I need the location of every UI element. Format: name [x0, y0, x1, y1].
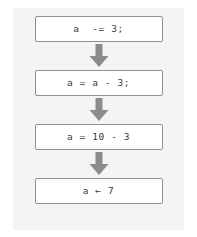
down-arrow-icon-3 — [86, 151, 112, 177]
down-arrow-icon-2 — [86, 97, 112, 123]
step-expanded-assignment-label: a = a - 3; — [67, 78, 130, 88]
diagram-root: a -= 3; a = a - 3; a = 10 - 3 a ← 7 — [0, 0, 197, 237]
step-compound-assignment: a -= 3; — [35, 16, 163, 42]
flowchart: a -= 3; a = a - 3; a = 10 - 3 a ← 7 — [0, 0, 197, 237]
step-compound-assignment-label: a -= 3; — [73, 24, 124, 34]
step-result-assignment-label: a ← 7 — [83, 186, 115, 196]
step-expanded-assignment: a = a - 3; — [35, 70, 163, 96]
step-substituted-value: a = 10 - 3 — [35, 124, 163, 150]
step-result-assignment: a ← 7 — [35, 178, 163, 204]
down-arrow-icon-1 — [86, 43, 112, 69]
step-substituted-value-label: a = 10 - 3 — [67, 132, 130, 142]
